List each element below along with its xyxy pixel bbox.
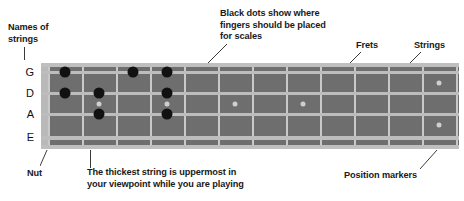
position-marker — [97, 102, 102, 107]
position-marker — [233, 102, 238, 107]
annotation-position-markers: Position markers — [344, 170, 464, 182]
finger-dot — [162, 109, 173, 120]
string-line-g — [41, 71, 459, 74]
finger-dot — [162, 67, 173, 78]
annotation-thickest-string: The thickest string is uppermost in your… — [87, 167, 287, 190]
fretboard-top-edge — [41, 63, 459, 67]
position-marker — [437, 123, 442, 128]
finger-dot — [128, 67, 139, 78]
string-label-g: G — [20, 66, 34, 78]
fretboard-bottom-edge — [41, 145, 459, 149]
fretboard — [41, 63, 459, 149]
annotation-names-of-strings: Names of strings — [8, 22, 88, 45]
annotation-nut: Nut — [27, 168, 67, 180]
finger-dot — [94, 109, 105, 120]
string-label-e: E — [20, 131, 34, 143]
finger-dot — [94, 88, 105, 99]
leader-line-position-markers — [420, 150, 438, 170]
finger-dot — [60, 67, 71, 78]
finger-dot — [162, 88, 173, 99]
leader-line-nut-stroke — [40, 150, 48, 167]
position-marker — [301, 102, 306, 107]
string-label-d: D — [20, 87, 34, 99]
annotation-strings: Strings — [414, 40, 462, 52]
position-marker — [165, 102, 170, 107]
annotation-black-dots: Black dots show where fingers should be … — [220, 8, 370, 43]
finger-dot — [60, 88, 71, 99]
diagram-canvas: Names of strings Black dots show where f… — [0, 0, 464, 201]
position-marker — [437, 81, 442, 86]
leader-line-names-of-strings — [24, 47, 25, 60]
annotation-frets: Frets — [356, 40, 396, 52]
string-line-e — [41, 136, 459, 140]
string-label-a: A — [20, 108, 34, 120]
leader-line-thickest-string — [90, 150, 91, 168]
